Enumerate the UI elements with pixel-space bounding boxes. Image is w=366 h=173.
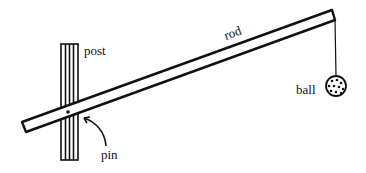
pin-dot xyxy=(66,110,70,114)
string xyxy=(335,19,336,76)
ball xyxy=(326,76,346,96)
label-rod: rod xyxy=(222,23,244,43)
pin-arrow-icon xyxy=(84,117,106,146)
label-post: post xyxy=(84,43,106,58)
label-ball: ball xyxy=(296,82,316,97)
pendulum-rod-diagram: post rod ball pin xyxy=(0,0,366,173)
label-pin: pin xyxy=(101,147,118,162)
diagram-canvas: post rod ball pin xyxy=(0,0,366,173)
